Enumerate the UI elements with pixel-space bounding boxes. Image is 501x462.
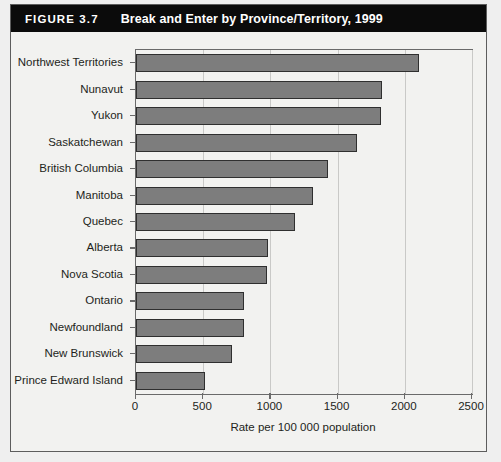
bar — [136, 134, 357, 152]
bar-fill — [136, 54, 419, 72]
bar — [136, 319, 244, 337]
y-axis-label: Manitoba — [76, 186, 123, 204]
bar-fill — [136, 160, 328, 178]
bar-fill — [136, 372, 205, 390]
y-axis-label: British Columbia — [39, 159, 123, 177]
figure-number: FIGURE 3.7 — [25, 13, 99, 25]
figure-title-bar: FIGURE 3.7 Break and Enter by Province/T… — [11, 5, 486, 32]
x-axis-tick — [404, 393, 405, 399]
x-axis-tick — [202, 393, 203, 399]
y-axis-label: Yukon — [91, 106, 123, 124]
bar — [136, 345, 232, 363]
bar-fill — [136, 134, 357, 152]
bar-fill — [136, 292, 244, 310]
figure-card: FIGURE 3.7 Break and Enter by Province/T… — [10, 4, 487, 452]
figure-title: Break and Enter by Province/Territory, 1… — [121, 12, 383, 26]
bar — [136, 292, 244, 310]
bar — [136, 107, 381, 125]
x-axis-tick — [135, 393, 136, 399]
x-axis-ticks — [135, 393, 471, 399]
bar-fill — [136, 345, 232, 363]
bar — [136, 160, 328, 178]
bar-fill — [136, 187, 313, 205]
bar-fill — [136, 239, 268, 257]
x-axis-tick-labels: 05001000150020002500 — [135, 400, 471, 416]
y-axis-label: Quebec — [83, 212, 123, 230]
y-axis-label: Newfoundland — [49, 318, 123, 336]
plot-area — [135, 49, 473, 395]
y-axis-label: Nunavut — [80, 80, 123, 98]
x-axis-tick-label: 500 — [193, 400, 212, 412]
x-axis-tick-label: 1000 — [257, 400, 283, 412]
bar — [136, 187, 313, 205]
bar — [136, 54, 419, 72]
y-axis-label: Northwest Territories — [18, 53, 123, 71]
gridline — [472, 50, 473, 394]
x-axis-tick-label: 0 — [132, 400, 138, 412]
bar-fill — [136, 81, 382, 99]
bar — [136, 81, 382, 99]
y-axis-label: Prince Edward Island — [14, 371, 123, 389]
x-axis-title: Rate per 100 000 population — [135, 421, 471, 433]
bar-fill — [136, 213, 295, 231]
x-axis-tick — [471, 393, 472, 399]
y-axis-label: New Brunswick — [44, 344, 123, 362]
x-axis-tick-label: 2500 — [458, 400, 484, 412]
x-axis-tick-label: 1500 — [324, 400, 350, 412]
bar-fill — [136, 107, 381, 125]
y-axis-label: Alberta — [87, 238, 123, 256]
x-axis-tick — [337, 393, 338, 399]
x-axis-tick-label: 2000 — [391, 400, 417, 412]
y-axis-label: Ontario — [85, 291, 123, 309]
bar — [136, 372, 205, 390]
bar — [136, 266, 267, 284]
y-axis-label: Nova Scotia — [61, 265, 123, 283]
y-axis-label: Saskatchewan — [48, 133, 123, 151]
y-axis-labels: Northwest TerritoriesNunavutYukonSaskatc… — [11, 49, 131, 393]
bar-fill — [136, 319, 244, 337]
bar — [136, 239, 268, 257]
bar-series — [136, 50, 472, 394]
x-axis-tick — [269, 393, 270, 399]
bar — [136, 213, 295, 231]
bar-fill — [136, 266, 267, 284]
